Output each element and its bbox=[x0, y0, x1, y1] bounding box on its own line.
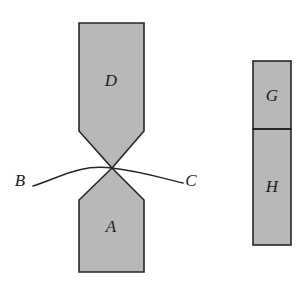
label-h: H bbox=[265, 177, 280, 196]
label-d: D bbox=[104, 71, 118, 90]
label-a: A bbox=[105, 217, 117, 236]
label-g: G bbox=[266, 86, 278, 105]
diagram-canvas: D A B C G H bbox=[0, 0, 308, 284]
figure-svg: D A B C G H bbox=[0, 0, 308, 284]
label-b: B bbox=[15, 171, 26, 190]
label-c: C bbox=[185, 171, 197, 190]
